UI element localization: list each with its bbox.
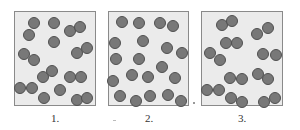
particle-circle — [133, 53, 145, 65]
particle-circle — [269, 92, 281, 104]
particle-circle — [46, 65, 58, 77]
particle-circle — [107, 75, 119, 87]
stray-dash — [113, 120, 116, 121]
particle-circle — [137, 35, 149, 47]
particle-circle — [133, 17, 145, 29]
particle-circle — [114, 90, 126, 102]
particle-circle — [110, 53, 122, 65]
particle-circle — [142, 71, 154, 83]
particle-circle — [262, 73, 274, 85]
particle-circle — [28, 17, 40, 29]
particle-circle — [54, 84, 66, 96]
particle-circle — [257, 48, 269, 60]
particle-circle — [109, 37, 121, 49]
particle-circle — [75, 71, 87, 83]
particle-circle — [48, 17, 60, 29]
particle-circle — [26, 82, 38, 94]
particle-circle — [81, 42, 93, 54]
particle-circle — [226, 15, 238, 27]
particle-circle — [162, 89, 174, 101]
particle-circle — [126, 69, 138, 81]
particle-circle — [48, 36, 60, 48]
particle-circle — [167, 20, 179, 32]
particle-circle — [213, 84, 225, 96]
particle-circle — [161, 42, 173, 54]
particle-circle — [270, 49, 282, 61]
particle-circle — [38, 92, 50, 104]
particle-circle — [231, 37, 243, 49]
particle-circle — [81, 92, 93, 104]
particle-circle — [130, 95, 142, 107]
box-label-1: 1. — [40, 112, 70, 124]
particle-circle — [74, 21, 86, 33]
particle-circle — [169, 72, 181, 84]
particle-circle — [14, 82, 26, 94]
particle-circle — [176, 47, 188, 59]
particle-circle — [175, 95, 187, 107]
particle-circle — [224, 72, 236, 84]
particle-circle — [28, 54, 40, 66]
particle-circle — [116, 16, 128, 28]
particle-circle — [251, 28, 263, 40]
particle-circle — [236, 73, 248, 85]
particle-circle — [156, 61, 168, 73]
particle-circle — [23, 29, 35, 41]
particle-circle — [236, 96, 248, 108]
particle-circle — [214, 54, 226, 66]
particle-circle — [144, 90, 156, 102]
particle-circle — [154, 17, 166, 29]
box-label-2: 2. — [134, 112, 164, 124]
box-label-3: 3. — [227, 112, 257, 124]
particle-circle — [262, 22, 274, 34]
stray-dot — [193, 102, 195, 104]
particle-circle — [201, 84, 213, 96]
